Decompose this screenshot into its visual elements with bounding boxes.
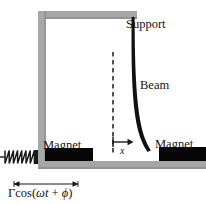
label-support: Support — [126, 18, 166, 31]
frame-top-bar-shade — [38, 17, 137, 19]
drive-omega-symbol: ω — [36, 186, 45, 200]
label-beam: Beam — [140, 79, 169, 92]
label-displacement-x: x — [120, 146, 124, 156]
drive-plus-symbol: + — [48, 186, 61, 200]
label-magnet-right: Magnet — [155, 138, 193, 151]
diagram-canvas — [0, 0, 206, 204]
label-magnet-left: Magnet — [43, 139, 81, 152]
frame-base-bar-shade — [38, 167, 206, 169]
drive-spring — [0, 150, 38, 164]
drive-close-paren: ) — [68, 186, 72, 200]
label-drive-force: Γcos(ωt + ϕ) — [8, 187, 72, 200]
cantilever-beam-diagram: Support Beam Magnet Magnet x Γcos(ωt + ϕ… — [0, 0, 206, 204]
drive-cos-open: cos( — [15, 186, 36, 200]
